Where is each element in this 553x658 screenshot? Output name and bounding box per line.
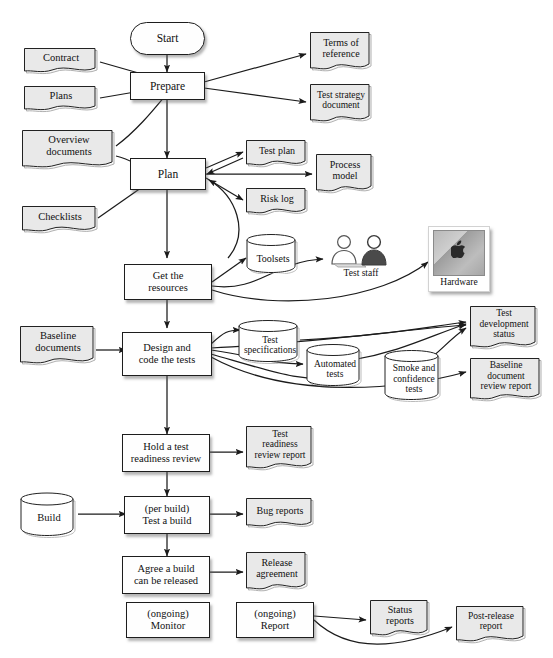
- node-risk-log-label: Risk log: [260, 193, 294, 204]
- node-report[interactable]: (ongoing) Report: [236, 602, 314, 638]
- node-test-build-line1: (per build): [143, 503, 192, 515]
- node-hardware[interactable]: Hardware: [428, 226, 488, 290]
- apple-logo-icon: [451, 240, 467, 258]
- node-test-plan-label: Test plan: [259, 145, 295, 156]
- node-smoke-confidence-tests[interactable]: Smoke and confidence tests: [382, 348, 446, 402]
- node-report-line1: (ongoing): [252, 608, 297, 620]
- node-process-model-line2: model: [333, 170, 358, 181]
- node-readiness-report-line1: Test: [272, 429, 288, 439]
- node-contract-label: Contract: [43, 52, 79, 64]
- node-test-build-line2: Test a build: [141, 515, 194, 527]
- node-start[interactable]: Start: [130, 22, 205, 55]
- node-test-readiness-review-report[interactable]: Test readiness review report: [244, 424, 316, 476]
- node-test-dev-status-line1: Test: [496, 308, 512, 318]
- node-post-release-line1: Post-release: [468, 611, 514, 621]
- node-monitor[interactable]: (ongoing) Monitor: [126, 602, 210, 638]
- node-bug-reports-label: Bug reports: [257, 505, 304, 516]
- node-test-specs-line2: specifications: [244, 345, 296, 355]
- node-status-reports[interactable]: Status reports: [368, 598, 432, 642]
- node-baseline-docs-line1: Baseline: [40, 330, 76, 342]
- node-test-specs-line1: Test: [262, 335, 278, 345]
- node-post-release-report[interactable]: Post-release report: [454, 604, 528, 648]
- node-report-line2: Report: [259, 620, 292, 632]
- node-hold-readiness-review[interactable]: Hold a test readiness review: [122, 434, 210, 472]
- node-baseline-document-review-report[interactable]: Baseline document review report: [468, 356, 544, 406]
- node-automated-line2: tests: [327, 369, 344, 379]
- node-agree-release-line2: can be released: [132, 575, 200, 587]
- node-plans-label: Plans: [50, 90, 73, 102]
- node-test-specifications[interactable]: Test specifications: [236, 318, 304, 364]
- node-design-code-tests[interactable]: Design and code the tests: [122, 332, 212, 376]
- flowchart-canvas: Start Prepare Plan Get the resources Des…: [0, 0, 553, 658]
- node-overview-docs-line2: documents: [46, 146, 92, 158]
- node-test-strategy-line1: Test strategy: [317, 90, 365, 100]
- node-test-staff[interactable]: Test staff: [322, 234, 400, 280]
- node-smoke-line3: tests: [406, 384, 423, 394]
- node-test-dev-status-line3: status: [493, 329, 515, 339]
- node-build[interactable]: Build: [18, 490, 80, 538]
- node-smoke-line1: Smoke and: [393, 363, 435, 373]
- node-baseline-review-line1: Baseline: [490, 360, 523, 370]
- node-get-resources[interactable]: Get the resources: [124, 264, 212, 300]
- node-baseline-documents[interactable]: Baseline documents: [18, 324, 98, 370]
- node-baseline-review-line2: document: [487, 371, 524, 381]
- node-build-label: Build: [37, 512, 60, 524]
- node-release-agreement-line2: agreement: [256, 568, 298, 579]
- node-test-development-status[interactable]: Test development status: [468, 304, 540, 354]
- node-overview-documents[interactable]: Overview documents: [20, 128, 118, 174]
- node-design-code-line2: code the tests: [137, 354, 198, 366]
- node-test-strategy-line2: document: [322, 100, 359, 110]
- node-release-agreement-line1: Release: [261, 557, 292, 568]
- node-risk-log[interactable]: Risk log: [244, 186, 310, 218]
- node-bug-reports[interactable]: Bug reports: [244, 496, 316, 532]
- node-terms-of-reference[interactable]: Terms of reference: [308, 30, 374, 76]
- node-post-release-line2: report: [480, 621, 503, 631]
- node-smoke-line2: confidence: [393, 374, 435, 384]
- node-toolsets[interactable]: Toolsets: [244, 232, 302, 274]
- node-baseline-docs-line2: documents: [35, 342, 81, 354]
- people-icon: [322, 234, 400, 268]
- node-process-model[interactable]: Process model: [314, 152, 376, 198]
- node-checklists[interactable]: Checklists: [20, 204, 100, 236]
- node-monitor-line1: (ongoing): [145, 608, 190, 620]
- node-automated-line1: Automated: [314, 359, 356, 369]
- node-design-code-line1: Design and: [141, 342, 193, 354]
- node-overview-docs-line1: Overview: [48, 134, 89, 146]
- node-process-model-line1: Process: [330, 159, 361, 170]
- node-baseline-review-line3: review report: [481, 381, 532, 391]
- node-test-dev-status-line2: development: [479, 319, 528, 329]
- node-test-a-build[interactable]: (per build) Test a build: [124, 496, 210, 534]
- node-test-staff-label: Test staff: [322, 268, 400, 278]
- node-get-resources-line2: resources: [146, 282, 190, 294]
- node-test-strategy-document[interactable]: Test strategy document: [308, 82, 374, 128]
- node-contract[interactable]: Contract: [22, 46, 100, 76]
- node-status-reports-line2: reports: [386, 615, 414, 626]
- node-terms-ref-line1: Terms of: [323, 37, 359, 48]
- node-plans[interactable]: Plans: [22, 84, 100, 114]
- node-start-label: Start: [155, 32, 181, 45]
- node-hold-review-line1: Hold a test: [141, 441, 191, 453]
- node-get-resources-line1: Get the: [151, 270, 186, 282]
- node-prepare[interactable]: Prepare: [130, 72, 205, 100]
- node-release-agreement[interactable]: Release agreement: [244, 550, 310, 596]
- node-automated-tests[interactable]: Automated tests: [304, 342, 366, 388]
- node-readiness-report-line3: review report: [255, 450, 306, 460]
- node-agree-build-released[interactable]: Agree a build can be released: [122, 556, 210, 594]
- node-prepare-label: Prepare: [148, 80, 187, 93]
- node-toolsets-label: Toolsets: [256, 253, 289, 264]
- node-test-plan[interactable]: Test plan: [244, 138, 310, 170]
- node-readiness-report-line2: readiness: [262, 439, 297, 449]
- node-hold-review-line2: readiness review: [129, 453, 203, 465]
- node-plan[interactable]: Plan: [130, 158, 206, 190]
- node-status-reports-line1: Status: [388, 604, 412, 615]
- node-hardware-label: Hardware: [436, 277, 481, 289]
- node-terms-ref-line2: reference: [322, 48, 359, 59]
- node-agree-release-line1: Agree a build: [135, 563, 196, 575]
- node-plan-label: Plan: [156, 168, 180, 181]
- node-monitor-line2: Monitor: [149, 620, 187, 632]
- node-checklists-label: Checklists: [38, 211, 82, 223]
